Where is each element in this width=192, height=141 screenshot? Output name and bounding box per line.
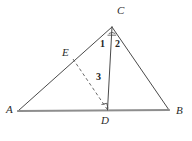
vertex-label-E: E — [62, 47, 69, 58]
segment-dashed-ED — [73, 59, 107, 109]
segment-cevian-CD — [108, 27, 113, 110]
vertex-label-A: A — [6, 104, 13, 115]
vertex-label-B: B — [176, 105, 183, 116]
right-angle-mark-at-D — [102, 103, 109, 108]
segment-side-AC — [18, 27, 112, 111]
angle-label-3: 3 — [96, 72, 101, 82]
angle-label-2: 2 — [115, 39, 120, 49]
geometry-figure: C E A B D 1 2 3 — [0, 0, 192, 141]
segment-base-AB — [18, 110, 169, 111]
segment-side-CB — [112, 27, 169, 110]
vertex-label-D: D — [101, 115, 109, 126]
angle-label-1: 1 — [100, 39, 105, 49]
vertex-label-C: C — [117, 5, 124, 16]
